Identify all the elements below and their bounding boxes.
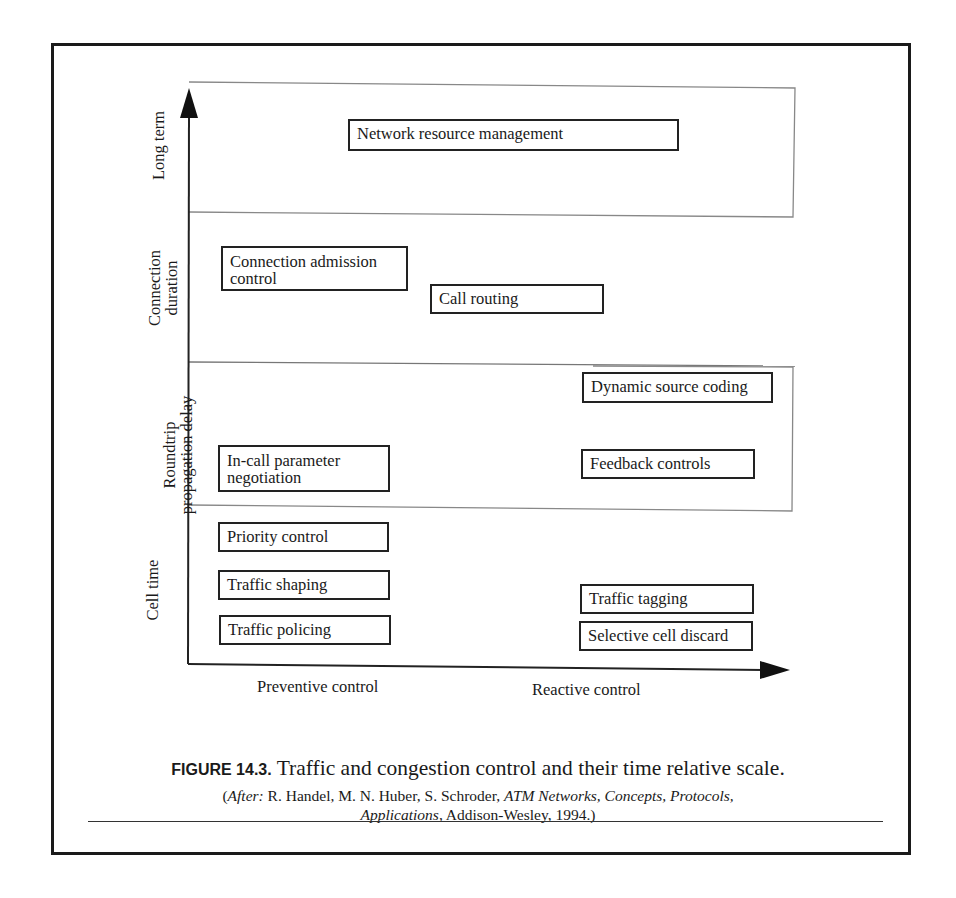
box-line: control xyxy=(230,270,406,287)
caption-divider xyxy=(88,821,883,822)
x-label-reactive-control: Reactive control xyxy=(532,680,641,700)
box-in-call-parameter-negotiation: In-call parameter negotiation xyxy=(218,445,390,492)
label-line: duration xyxy=(163,238,180,338)
box-line: negotiation xyxy=(227,469,388,486)
y-axis-arrowhead-icon xyxy=(180,88,198,118)
y-band-label-connection-duration: Connection duration xyxy=(146,238,180,338)
y-band-label-cell-time: Cell time xyxy=(144,561,161,621)
figure-title: Traffic and congestion control and their… xyxy=(272,756,785,780)
figure-caption-source-line1: (After: R. Handel, M. N. Huber, S. Schro… xyxy=(0,787,956,805)
box-dynamic-source-coding: Dynamic source coding xyxy=(582,372,773,403)
source-after: After: xyxy=(228,787,264,804)
box-network-resource-management: Network resource management xyxy=(348,119,679,151)
figure-caption-title: FIGURE 14.3. Traffic and congestion cont… xyxy=(0,756,956,781)
box-line: In-call parameter xyxy=(227,452,388,469)
label-line: propagation delay xyxy=(178,380,195,530)
source-authors: R. Handel, M. N. Huber, S. Schroder, xyxy=(264,787,504,804)
y-band-label-long-term: Long term xyxy=(150,96,167,196)
figure-number: FIGURE 14.3. xyxy=(171,761,271,778)
box-connection-admission-control: Connection admission control xyxy=(221,246,408,291)
x-label-preventive-control: Preventive control xyxy=(257,677,378,697)
box-traffic-policing: Traffic policing xyxy=(219,615,391,645)
box-line: Connection admission xyxy=(230,253,406,270)
band-divider-connection xyxy=(189,362,795,366)
source-book-title: ATM Networks, Concepts, Protocols, xyxy=(504,787,734,804)
box-feedback-controls: Feedback controls xyxy=(581,449,755,479)
y-band-label-roundtrip-propagation-delay: Roundtrip propagation delay xyxy=(161,380,195,530)
box-priority-control: Priority control xyxy=(218,522,389,552)
box-traffic-tagging: Traffic tagging xyxy=(580,584,754,614)
label-line: Long term xyxy=(150,96,167,196)
x-axis-arrowhead-icon xyxy=(760,661,790,679)
box-selective-cell-discard: Selective cell discard xyxy=(579,621,753,651)
label-line: Connection xyxy=(146,238,163,338)
x-axis-line xyxy=(188,664,765,670)
label-line: Roundtrip xyxy=(161,380,178,530)
box-call-routing: Call routing xyxy=(430,284,604,314)
label-line: Cell time xyxy=(144,561,161,621)
box-traffic-shaping: Traffic shaping xyxy=(218,570,390,600)
